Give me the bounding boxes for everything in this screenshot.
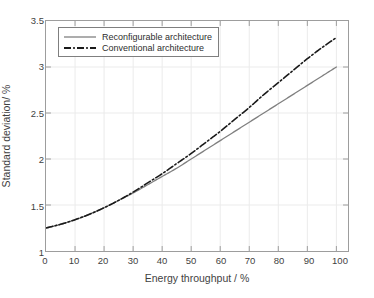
x-tick-label: 100 (328, 256, 352, 266)
x-tick-label: 80 (269, 256, 289, 266)
y-axis-title: Standard deviation/ % (0, 20, 14, 252)
x-tick-label: 30 (123, 256, 143, 266)
x-tick-label: 10 (64, 256, 84, 266)
legend-item-conventional[interactable]: Conventional architecture (63, 42, 212, 53)
x-tick-label: 50 (181, 256, 201, 266)
chart-figure: 3.5 3 2.5 2 1.5 1 0 10 20 30 40 50 60 70… (0, 0, 374, 298)
x-axis-title: Energy throughput / % (45, 272, 349, 284)
y-tick-label: 3.5 (31, 16, 44, 26)
x-tick-label: 60 (211, 256, 231, 266)
chart-legend: Reconfigurable architecture Conventional… (58, 27, 219, 57)
y-tick-label: 2.5 (31, 109, 44, 119)
x-tick-label: 90 (299, 256, 319, 266)
y-tick-label: 1.5 (31, 202, 44, 212)
y-tick-label: 2 (39, 155, 44, 165)
legend-item-reconfigurable[interactable]: Reconfigurable architecture (63, 31, 212, 42)
x-tick-label: 20 (93, 256, 113, 266)
plot-area: Reconfigurable architecture Conventional… (45, 20, 349, 252)
y-tick-label: 3 (39, 62, 44, 72)
dash-dot-black-line-icon (63, 43, 97, 53)
series-line-reconfigurable (46, 67, 336, 228)
solid-gray-line-icon (63, 32, 97, 42)
series-line-conventional (46, 38, 336, 228)
x-tick-label: 70 (240, 256, 260, 266)
x-tick-label: 40 (152, 256, 172, 266)
legend-label: Reconfigurable architecture (102, 32, 212, 42)
legend-label: Conventional architecture (102, 43, 204, 53)
x-tick-label: 0 (35, 256, 55, 266)
